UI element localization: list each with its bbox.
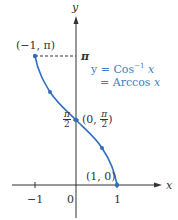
point-label-1-0: (1, 0) — [86, 171, 116, 182]
point-0-pi2 — [74, 118, 78, 122]
x-axis-arrow-icon — [154, 183, 162, 188]
equation-line-1: y = Cos−1 x — [91, 63, 154, 75]
y-axis-label: y — [72, 2, 78, 13]
point-1-0 — [115, 183, 119, 187]
y-tick-label-pi2: π2 — [63, 110, 71, 129]
point-intermediate-2 — [100, 146, 104, 150]
x-tick-label-neg1: −1 — [27, 194, 43, 205]
point-intermediate-1 — [48, 90, 52, 94]
x-tick-label-1: 1 — [114, 194, 121, 205]
point-label-0-pi2: (0, π2) — [82, 110, 113, 129]
y-axis-arrow-icon — [74, 16, 79, 24]
point-neg1-pi — [33, 54, 37, 58]
x-axis-label: x — [166, 180, 172, 191]
x-tick-label-0: 0 — [67, 194, 74, 205]
y-tick-label-pi: π — [81, 51, 89, 62]
equation-line-2: = Arccos x — [100, 77, 160, 88]
point-label-neg1-pi: (−1, π) — [16, 40, 55, 51]
